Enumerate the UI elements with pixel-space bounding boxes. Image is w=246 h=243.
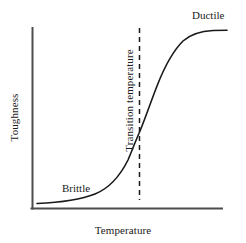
ductile-region-label: Ductile [192, 10, 224, 21]
transition-temperature-label: Transition temperature [124, 36, 135, 166]
toughness-temperature-chart: Temperature Toughness Brittle Ductile Tr… [0, 0, 246, 243]
brittle-region-label: Brittle [62, 183, 90, 194]
y-axis-label: Toughness [9, 78, 20, 158]
x-axis-label: Temperature [0, 225, 246, 236]
